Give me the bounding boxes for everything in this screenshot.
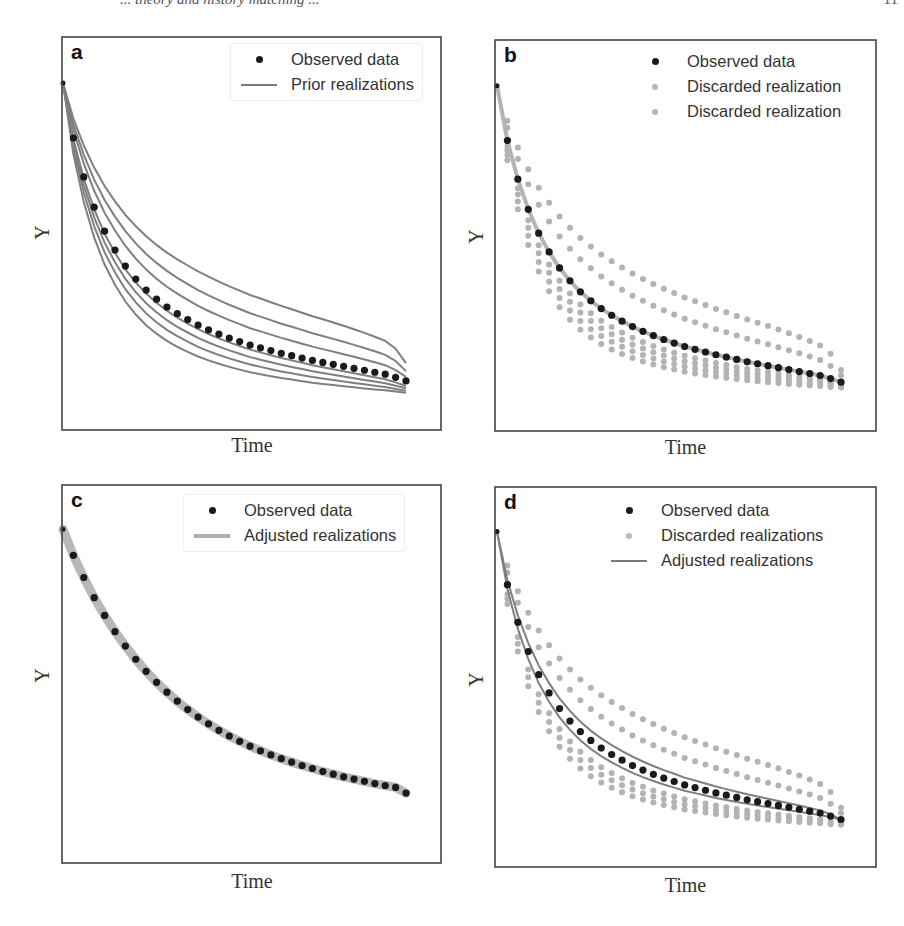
discarded-point <box>525 624 531 630</box>
observed-point <box>650 771 657 778</box>
discarded-point <box>598 692 604 698</box>
discarded-point <box>661 791 667 797</box>
discarded-point <box>640 738 646 744</box>
discarded-point <box>650 787 656 793</box>
discarded-point <box>609 721 615 727</box>
discarded-point <box>536 627 542 633</box>
discarded-point <box>567 756 573 762</box>
discarded-point <box>546 661 552 667</box>
discarded-point <box>755 809 761 815</box>
observed-point <box>691 784 698 791</box>
discarded-point <box>557 735 563 741</box>
discarded-point <box>640 790 646 796</box>
discarded-point <box>807 815 813 821</box>
gray-dot-marker-icon <box>607 526 651 546</box>
discarded-point <box>775 812 781 818</box>
discarded-point <box>838 810 844 816</box>
observed-point <box>556 705 563 712</box>
discarded-point <box>702 762 708 768</box>
discarded-point <box>775 782 781 788</box>
discarded-point <box>661 796 667 802</box>
discarded-point <box>640 716 646 722</box>
discarded-point <box>546 728 552 734</box>
observed-point <box>702 787 709 794</box>
discarded-point <box>734 752 740 758</box>
discarded-point <box>577 757 583 763</box>
discarded-point <box>630 793 636 799</box>
discarded-point <box>630 780 636 786</box>
discarded-point <box>755 759 761 765</box>
discarded-point <box>588 685 594 691</box>
discarded-point <box>619 782 625 788</box>
discarded-point <box>557 655 563 661</box>
discarded-point <box>807 792 813 798</box>
line-marker-icon <box>607 551 651 571</box>
discarded-point <box>525 610 531 616</box>
discarded-point <box>786 813 792 819</box>
discarded-point <box>692 738 698 744</box>
discarded-point <box>515 648 521 654</box>
legend-item-observed: Observed data <box>607 498 823 523</box>
observed-point <box>764 800 771 807</box>
discarded-point <box>723 768 729 774</box>
discarded-point <box>557 726 563 732</box>
observed-point <box>660 774 667 781</box>
discarded-point <box>765 810 771 816</box>
observed-point <box>504 581 511 588</box>
y-axis-label: Y <box>465 670 488 690</box>
discarded-point <box>536 700 542 706</box>
discarded-point <box>515 588 521 594</box>
discarded-point <box>828 789 834 795</box>
observed-point <box>827 812 834 819</box>
discarded-point <box>619 789 625 795</box>
discarded-point <box>588 757 594 763</box>
discarded-point <box>692 798 698 804</box>
discarded-point <box>734 771 740 777</box>
observed-point <box>587 737 594 744</box>
discarded-point <box>650 742 656 748</box>
observed-point <box>712 789 719 796</box>
discarded-point <box>515 600 521 606</box>
discarded-point <box>567 738 573 744</box>
discarded-point <box>661 802 667 808</box>
discarded-point <box>744 808 750 814</box>
discarded-point <box>671 751 677 757</box>
discarded-point <box>515 641 521 647</box>
legend-label: Discarded realizations <box>661 526 823 545</box>
legend-label: Observed data <box>661 501 769 520</box>
discarded-point <box>588 773 594 779</box>
discarded-point <box>577 697 583 703</box>
discarded-point <box>765 780 771 786</box>
discarded-point <box>525 666 531 672</box>
observed-point <box>806 808 813 815</box>
observed-point <box>535 671 542 678</box>
plot-area <box>0 0 904 926</box>
discarded-point <box>807 777 813 783</box>
legend-item-discarded: Discarded realizations <box>607 523 823 548</box>
discarded-point <box>828 801 834 807</box>
discarded-point <box>609 699 615 705</box>
discarded-point <box>650 793 656 799</box>
discarded-point <box>755 777 761 783</box>
discarded-point <box>598 764 604 770</box>
observed-point <box>566 717 573 724</box>
discarded-point <box>619 727 625 733</box>
discarded-point <box>598 772 604 778</box>
discarded-point <box>536 709 542 715</box>
discarded-point <box>557 675 563 681</box>
observed-point <box>671 778 678 785</box>
observed-point <box>639 767 646 774</box>
discarded-point <box>723 749 729 755</box>
observed-point <box>608 751 615 758</box>
discarded-point <box>525 683 531 689</box>
discarded-point <box>713 745 719 751</box>
discarded-point <box>630 732 636 738</box>
discarded-point <box>577 766 583 772</box>
discarded-point <box>661 726 667 732</box>
observed-point <box>525 648 532 655</box>
discarded-point <box>609 770 615 776</box>
discarded-point <box>817 816 823 822</box>
observed-point <box>723 792 730 799</box>
discarded-point <box>744 756 750 762</box>
discarded-point <box>619 775 625 781</box>
